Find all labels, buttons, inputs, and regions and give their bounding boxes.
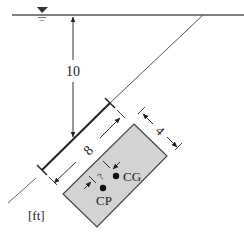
inclined-plane-line-lower: [8, 178, 36, 203]
width-dimension-tick-left: [138, 107, 145, 114]
units-label: [ft]: [28, 208, 45, 223]
inclined-plane-line: [110, 15, 203, 103]
width-dimension-arrow-right: [167, 137, 177, 147]
length-dimension-arrow-down: [54, 162, 76, 183]
cg-label: CG: [123, 169, 141, 184]
length-dimension-tick-top: [117, 110, 125, 118]
width-dimension-arrow-left: [143, 114, 153, 124]
width-label: 4: [153, 123, 169, 139]
length-dimension-arrow-up: [100, 118, 120, 138]
cg-point: [113, 173, 119, 179]
cp-label: CP: [96, 193, 112, 208]
depth-label: 10: [66, 64, 80, 79]
inclined-plate-diagram: 10 8 4 ? CG CP [ft]: [0, 0, 244, 232]
length-label: 8: [81, 143, 97, 159]
cp-point: [100, 185, 106, 191]
water-level-symbol-icon: [37, 7, 48, 21]
